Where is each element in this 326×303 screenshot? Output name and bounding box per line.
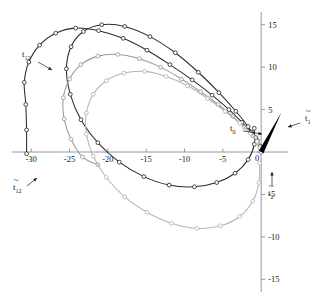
series-line [24, 28, 261, 154]
series-spiral-gray-outer [61, 53, 263, 167]
data-point-marker [38, 43, 42, 47]
data-point-marker [164, 75, 168, 79]
data-point-marker [215, 181, 219, 185]
x-tick-label: -25 [64, 154, 75, 164]
data-point-marker [84, 111, 88, 115]
data-point-marker [143, 69, 147, 73]
data-point-marker [68, 92, 72, 96]
annotations-layer: t12t12~t0t1~t2~ [13, 49, 311, 200]
data-point-marker [96, 141, 100, 145]
annotation-text: t12 [22, 49, 31, 61]
data-point-marker [190, 78, 194, 82]
data-point-marker [25, 152, 29, 156]
y-tick-label: 15 [268, 20, 277, 30]
x-tick-label: -10 [179, 154, 190, 164]
x-tick-label: -20 [102, 154, 113, 164]
t12-upper-label: t12 [22, 49, 52, 70]
t1-tilde-label: t1~ [288, 106, 311, 128]
data-point-marker [170, 221, 174, 225]
data-point-marker [137, 57, 141, 61]
data-point-marker [65, 67, 69, 71]
data-point-marker [81, 155, 85, 159]
data-point-marker [168, 63, 172, 67]
y-tick-label: -15 [268, 274, 279, 284]
annotation-arrow-head [270, 172, 273, 176]
y-tick-label: -10 [268, 232, 279, 242]
axes-layer: -30-25-20-15-10-5 151050-5-10-15 [12, 12, 288, 292]
data-point-marker [96, 54, 100, 58]
data-point-marker [68, 77, 72, 81]
data-point-marker [69, 45, 73, 49]
data-point-marker [116, 53, 120, 57]
data-point-marker [167, 183, 171, 187]
data-point-marker [100, 23, 104, 27]
data-point-marker [79, 63, 83, 67]
vector-arrows-layer [259, 113, 281, 153]
t2-tilde-label: t2~ [268, 172, 274, 200]
spiral-trajectory-chart: -30-25-20-15-10-5 151050-5-10-15 t12t12~… [0, 0, 326, 303]
data-point-marker [186, 84, 190, 88]
data-point-marker [69, 137, 73, 141]
data-point-marker [142, 175, 146, 179]
data-point-marker [24, 103, 28, 107]
data-point-marker [257, 181, 261, 185]
data-point-marker [74, 26, 78, 30]
t1-tilde-vector [259, 113, 281, 153]
data-point-marker [84, 132, 88, 136]
data-series-layer [22, 23, 263, 230]
data-point-marker [91, 154, 95, 158]
data-point-marker [61, 96, 65, 100]
accent-mark: ~ [14, 175, 19, 185]
data-point-marker [195, 226, 199, 230]
data-point-marker [238, 215, 242, 219]
data-point-marker [62, 117, 66, 121]
data-point-marker [251, 199, 255, 203]
data-point-marker [196, 70, 200, 74]
data-point-marker [246, 158, 250, 162]
data-point-marker [81, 30, 85, 34]
data-point-marker [97, 29, 101, 33]
data-point-marker [22, 81, 26, 85]
data-point-marker [104, 79, 108, 83]
data-point-marker [217, 91, 221, 95]
data-point-marker [210, 93, 214, 97]
data-point-marker [193, 185, 197, 189]
data-point-marker [123, 25, 127, 29]
data-point-marker [145, 48, 149, 52]
data-point-marker [123, 195, 127, 199]
data-point-marker [233, 171, 237, 175]
data-point-marker [54, 31, 58, 35]
data-point-marker [227, 108, 231, 112]
data-point-marker [234, 109, 238, 113]
data-point-marker [117, 160, 121, 164]
x-axis-ticks: -30-25-20-15-10-5 [25, 149, 226, 165]
data-point-marker [219, 224, 223, 228]
annotation-arrow-head [288, 124, 292, 127]
chart-svg: -30-25-20-15-10-5 151050-5-10-15 t12t12~… [0, 0, 326, 303]
y-tick-label: 10 [268, 62, 277, 72]
data-point-marker [180, 77, 184, 81]
series-line [86, 71, 262, 228]
data-point-marker [238, 121, 242, 125]
data-point-marker [223, 109, 227, 113]
accent-mark: ~ [306, 106, 311, 116]
series-line [63, 54, 261, 164]
data-point-marker [122, 71, 126, 75]
data-point-marker [258, 161, 262, 165]
t12-lower-label: t12~ [13, 175, 37, 194]
x-tick-label: -5 [219, 154, 226, 164]
x-tick-label: -15 [140, 154, 151, 164]
data-point-marker [173, 51, 177, 55]
data-point-marker [159, 65, 163, 69]
data-point-marker [252, 126, 256, 130]
annotation-text: t0 [230, 123, 236, 135]
series-spiral-gray-inner [84, 69, 263, 230]
series-spiral-dark-outer [22, 26, 263, 155]
data-point-marker [121, 36, 125, 40]
series-line [66, 24, 261, 187]
data-point-marker [148, 35, 152, 39]
accent-mark: ~ [269, 181, 274, 191]
y-tick-label: 5 [268, 105, 272, 115]
data-point-marker [255, 139, 259, 143]
data-point-marker [206, 97, 210, 101]
